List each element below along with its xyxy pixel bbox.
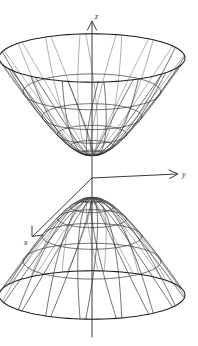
surface-meridian	[92, 35, 122, 155]
surface-meridian	[92, 198, 173, 307]
surface-meridian	[92, 47, 175, 155]
surface-meridian	[78, 198, 92, 319]
surface-meridian	[91, 198, 117, 318]
x-axis-label: x	[23, 238, 28, 247]
surface-meridian	[35, 77, 92, 156]
surface-meridian	[78, 34, 92, 155]
surface-meridian	[92, 198, 175, 306]
surface-meridian	[46, 198, 92, 316]
surface-meridian	[51, 36, 92, 155]
hyperboloid-diagram: z y x	[0, 0, 198, 346]
y-axis-label: y	[181, 170, 186, 179]
surface-meridian	[4, 50, 92, 155]
surface-meridian	[92, 198, 122, 318]
z-axis-label: z	[94, 12, 99, 21]
surface-meridian	[92, 46, 173, 155]
hyperboloid-figure: z y x	[0, 0, 198, 346]
axes-group	[32, 21, 178, 337]
surface-meridian	[4, 198, 92, 303]
surface-meridian	[46, 37, 92, 155]
y-axis-line	[92, 174, 177, 178]
surface-meridian	[51, 198, 92, 317]
